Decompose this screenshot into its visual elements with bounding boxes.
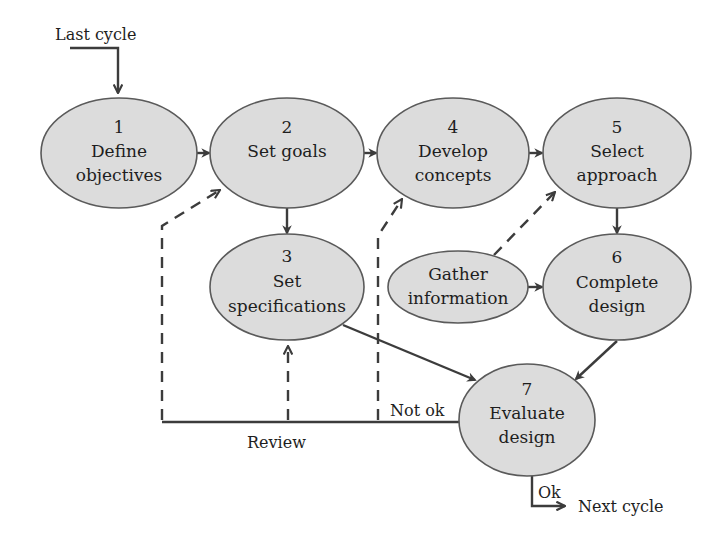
node-5-line1: Select: [590, 141, 644, 161]
node-gather-line1: Gather: [428, 264, 489, 284]
node-1-define-objectives: 1 Define objectives: [41, 98, 197, 208]
node-4-develop-concepts: 4 Develop concepts: [377, 98, 529, 208]
node-6-line1: Complete: [576, 272, 659, 292]
node-5-select-approach: 5 Select approach: [543, 98, 691, 208]
last-cycle-label: Last cycle: [55, 25, 136, 44]
node-6-number: 6: [612, 247, 623, 267]
review-label: Review: [247, 433, 306, 452]
edge-6-to-7: [576, 341, 617, 379]
node-gather-information: Gather information: [388, 251, 528, 323]
node-7-evaluate-design: 7 Evaluate design: [459, 364, 595, 476]
node-4-number: 4: [448, 117, 459, 137]
next-cycle-label: Next cycle: [578, 497, 664, 516]
node-5-line2: approach: [577, 165, 658, 185]
node-gather-line2: information: [408, 288, 509, 308]
node-gather-shape: [388, 251, 528, 323]
edge-3-to-7: [343, 325, 475, 380]
node-1-number: 1: [114, 117, 125, 137]
edge-review-to-2: [162, 190, 220, 420]
node-3-line1: Set: [273, 271, 302, 291]
node-7-line2: design: [499, 427, 556, 447]
edge-review-to-4: [378, 199, 402, 420]
node-2-number: 2: [282, 117, 293, 137]
node-1-line1: Define: [91, 141, 147, 161]
node-3-line2: specifications: [228, 296, 346, 316]
node-6-complete-design: 6 Complete design: [543, 234, 691, 340]
edge-lastcycle-to-1: [70, 48, 118, 93]
node-4-line2: concepts: [415, 165, 492, 185]
node-6-line2: design: [589, 296, 646, 316]
node-4-line1: Develop: [418, 141, 488, 161]
design-process-diagram: Last cycle Not ok Review Ok Next cycle 1…: [0, 0, 719, 539]
not-ok-label: Not ok: [390, 401, 445, 420]
node-7-line1: Evaluate: [489, 403, 565, 423]
node-7-number: 7: [522, 379, 533, 399]
edge-gather-to-5: [494, 192, 555, 255]
node-2-line1: Set goals: [247, 141, 326, 161]
node-3-number: 3: [282, 246, 293, 266]
ok-label: Ok: [538, 483, 561, 502]
node-2-set-goals: 2 Set goals: [210, 98, 364, 208]
node-1-line2: objectives: [76, 165, 163, 185]
node-3-set-specifications: 3 Set specifications: [210, 234, 364, 340]
node-5-number: 5: [612, 117, 623, 137]
